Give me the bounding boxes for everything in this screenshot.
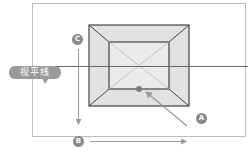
badge-c: C — [72, 34, 83, 45]
horizon-label: 视平线 — [9, 66, 61, 79]
horizon-label-pointer — [42, 78, 49, 84]
diagram-canvas — [0, 0, 248, 159]
badge-a: A — [196, 113, 207, 124]
badge-b: B — [73, 136, 84, 147]
perspective-diagram: C B A 视平线 — [0, 0, 248, 159]
vanishing-point-dot — [136, 86, 142, 92]
